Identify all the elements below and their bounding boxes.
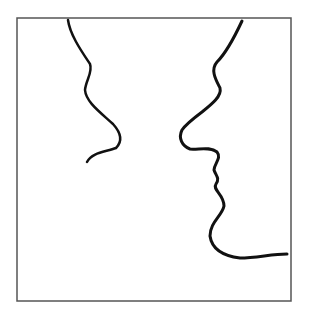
rubin-vase-figure — [0, 0, 312, 311]
left-face-profile — [68, 20, 120, 162]
right-face-profile — [180, 21, 287, 258]
